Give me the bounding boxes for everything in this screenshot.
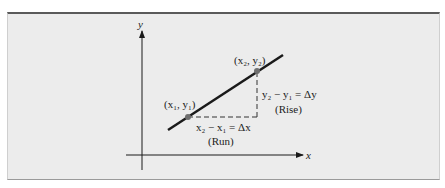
point-2-label: (x₂, y₂)	[234, 54, 266, 67]
run-caption: (Run)	[208, 135, 234, 148]
point-2-marker	[254, 68, 260, 74]
x-axis: x	[126, 149, 311, 161]
rise-formula: y₂ − y₁ = Δy	[262, 88, 317, 100]
point-1-marker	[185, 114, 191, 120]
point-1-label: (x₁, y₁)	[164, 98, 196, 111]
slope-diagram: y x (x₁, y₁) (x₂, y₂) x₂ − x₁ = Δx (Run)…	[0, 0, 445, 188]
y-axis: y	[137, 18, 143, 170]
x-axis-label: x	[305, 149, 311, 161]
y-axis-label: y	[137, 18, 143, 30]
rise-caption: (Rise)	[275, 103, 302, 116]
run-formula: x₂ − x₁ = Δx	[196, 121, 251, 133]
